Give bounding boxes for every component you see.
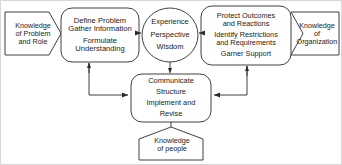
knowledge-of-problem-shape <box>5 12 61 55</box>
communicate-shape <box>131 74 211 122</box>
diagram-canvas: Knowledge of Problem and Role Define Pro… <box>0 0 342 165</box>
edge-protect-to-communicate <box>214 66 247 95</box>
diagram-drawing <box>1 1 342 165</box>
define-problem-shape <box>61 8 139 62</box>
knowledge-of-organization-shape <box>291 12 339 55</box>
experience-shape <box>142 8 198 62</box>
edge-define-to-communicate <box>89 63 128 95</box>
knowledge-of-people-shape <box>139 127 203 160</box>
protect-outcomes-shape <box>201 6 291 65</box>
